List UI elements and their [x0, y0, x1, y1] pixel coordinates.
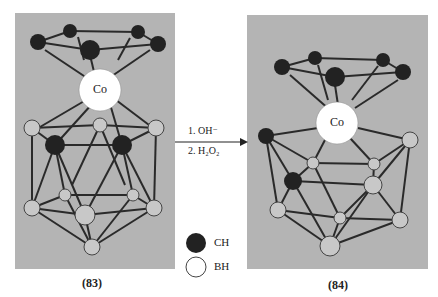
ch-atom: [308, 51, 322, 65]
bh-atom: [334, 212, 346, 224]
bh-atom: [270, 202, 286, 218]
ch-atom: [376, 53, 390, 67]
ch-atom: [30, 34, 46, 50]
bh-atom: [392, 212, 408, 228]
atoms-83: [24, 24, 166, 255]
bh-atom: [24, 120, 40, 136]
ch-atom: [63, 24, 77, 38]
ch-atom: [325, 67, 345, 87]
legend-ch-label: CH: [214, 236, 229, 248]
reagent-step-1: 1. OH⁻: [188, 125, 218, 136]
bh-atom: [59, 189, 71, 201]
ch-atom: [45, 135, 65, 155]
ch-atom: [274, 59, 290, 75]
bh-atom: [364, 176, 382, 194]
compound-label-84: (84): [318, 278, 358, 293]
legend-bh-label: BH: [214, 260, 229, 272]
ch-atom: [131, 25, 145, 39]
compound-label-83: (83): [72, 276, 112, 291]
ch-atom: [150, 36, 166, 52]
ch-atom: [112, 135, 132, 155]
bh-atom: [24, 200, 40, 216]
legend-bh-symbol: [186, 257, 206, 277]
bh-atom: [93, 118, 107, 132]
bh-atom: [84, 239, 100, 255]
ch-atom: [80, 40, 100, 60]
co-label-83: Co: [88, 82, 112, 97]
ch-atom: [395, 64, 411, 80]
ch-atom: [258, 128, 274, 144]
bh-atom: [75, 205, 95, 225]
bh-atom: [368, 158, 380, 170]
ch-atom: [284, 172, 302, 190]
bh-atom: [307, 157, 319, 169]
legend-ch-symbol: [186, 233, 206, 253]
reagent-step-2: 2. H₂O₂: [188, 145, 219, 156]
bh-atom: [320, 236, 340, 256]
bh-atom: [402, 132, 418, 148]
bh-atom: [146, 200, 162, 216]
bh-atom: [127, 189, 139, 201]
bh-atom: [148, 120, 164, 136]
co-label-84: Co: [325, 115, 349, 130]
